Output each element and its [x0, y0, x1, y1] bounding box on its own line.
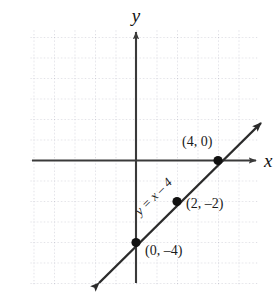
- point-label-2-neg2: (2, –2): [186, 196, 224, 212]
- x-axis-label: x: [263, 150, 273, 171]
- graph-figure: y x (4, 0) (2, –2) (0, –4) y = x – 4: [0, 0, 278, 292]
- point-label-0-neg4: (0, –4): [145, 243, 183, 259]
- coordinate-plane-svg: y x (4, 0) (2, –2) (0, –4) y = x – 4: [0, 0, 278, 292]
- data-point-0-neg4: [131, 238, 140, 247]
- data-point-4-0: [213, 156, 222, 165]
- y-axis-label: y: [130, 5, 141, 26]
- point-label-4-0: (4, 0): [182, 134, 213, 150]
- data-point-2-neg2: [172, 197, 181, 206]
- grid-area: [30, 30, 258, 285]
